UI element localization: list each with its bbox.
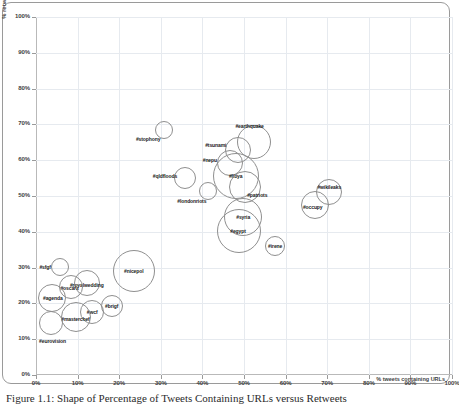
bubble-label: #nicepol	[124, 268, 143, 274]
y-tick-label: 70%	[6, 120, 30, 126]
gridline-horizontal	[36, 89, 452, 90]
y-tick-label: 30%	[6, 264, 30, 270]
y-tick-mark	[32, 268, 36, 269]
x-tick-mark	[202, 375, 203, 379]
y-tick-mark	[32, 89, 36, 90]
x-tick-mark	[161, 375, 162, 379]
y-tick-label: 90%	[6, 49, 30, 55]
bubble-label: #sfgf	[39, 264, 50, 270]
x-tick-mark	[286, 375, 287, 379]
bubble-label: #qldfloods	[153, 173, 177, 179]
y-tick-label: 10%	[6, 335, 30, 341]
chart-frame: 0%10%20%30%40%50%60%70%80%90%100% 0%10%2…	[2, 2, 450, 384]
x-tick-label: 60%	[280, 380, 292, 386]
bubble-label: #wikileaks	[317, 184, 341, 190]
x-tick-mark	[78, 375, 79, 379]
y-tick-mark	[32, 53, 36, 54]
x-tick-label: 20%	[113, 380, 125, 386]
x-tick-mark	[452, 375, 453, 379]
bubble-label: #irene	[268, 243, 282, 249]
x-tick-label: 0%	[32, 380, 40, 386]
y-tick-mark	[32, 303, 36, 304]
x-tick-mark	[369, 375, 370, 379]
bubble-marker	[39, 311, 63, 335]
y-tick-mark	[32, 124, 36, 125]
gridline-horizontal	[36, 53, 452, 54]
bubble-marker	[174, 167, 196, 189]
x-tick-label: 100%	[445, 380, 459, 386]
x-tick-mark	[327, 375, 328, 379]
y-tick-mark	[32, 17, 36, 18]
y-tick-label: 50%	[6, 192, 30, 198]
bubble-label: #eurovision	[39, 338, 66, 344]
y-tick-label: 20%	[6, 299, 30, 305]
x-tick-label: 70%	[321, 380, 333, 386]
y-tick-mark	[32, 196, 36, 197]
bubble-label: #brigf	[105, 303, 118, 309]
y-tick-label: 100%	[6, 13, 30, 19]
x-tick-mark	[119, 375, 120, 379]
x-tick-label: 40%	[197, 380, 209, 386]
bubble-label: #nepu	[203, 157, 217, 163]
bubble-label: #londonriots	[177, 198, 206, 204]
gridline-vertical	[452, 17, 453, 375]
x-axis-title: % tweets containing URLs	[376, 376, 445, 382]
bubble-label: #masterchef	[61, 316, 89, 322]
x-tick-label: 30%	[155, 380, 167, 386]
bubble-label: #occupy	[303, 204, 323, 210]
y-axis-title: % retweets	[1, 0, 7, 19]
y-tick-mark	[32, 339, 36, 340]
bubble-label: #agenda	[43, 295, 63, 301]
gridline-horizontal	[36, 17, 452, 18]
y-tick-label: 0%	[6, 371, 30, 377]
bubble-label: #stophony	[136, 136, 160, 142]
y-tick-label: 40%	[6, 228, 30, 234]
figure-caption: Figure 1.1: Shape of Percentage of Tweet…	[6, 392, 450, 408]
y-tick-mark	[32, 160, 36, 161]
gridline-horizontal	[36, 339, 452, 340]
x-tick-label: 10%	[72, 380, 84, 386]
y-tick-mark	[32, 232, 36, 233]
bubble-marker	[51, 258, 69, 276]
bubble-label: #tsunami	[205, 142, 226, 148]
bubble-label: #egypt	[230, 228, 246, 234]
bubble-label: #earthquake	[235, 123, 263, 129]
x-tick-mark	[244, 375, 245, 379]
plot-area: 0%10%20%30%40%50%60%70%80%90%100% 0%10%2…	[36, 17, 452, 375]
x-tick-label: 50%	[238, 380, 250, 386]
bubble-label: #patriots	[247, 192, 267, 198]
y-tick-label: 80%	[6, 85, 30, 91]
y-tick-label: 60%	[6, 156, 30, 162]
gridline-horizontal	[36, 268, 452, 269]
x-tick-label: 80%	[363, 380, 375, 386]
x-tick-mark	[36, 375, 37, 379]
